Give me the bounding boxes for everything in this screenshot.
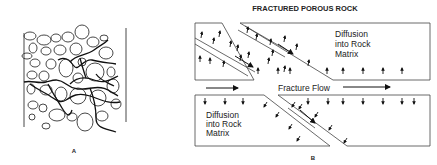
panel-b: FRACTURED POROUS ROCK [175,0,437,165]
panel-a-label: A [72,148,77,154]
fractured-rock-schematic: FRACTURED POROUS ROCK [175,0,437,165]
diagram-title: FRACTURED POROUS ROCK [252,4,358,13]
svg-text:Matrix: Matrix [206,128,230,138]
lower-diffusion-label: Diffusion into Rock Matrix [206,110,242,138]
upper-rock-block [195,23,430,80]
upper-diffusion-label: Diffusion into Rock Matrix [335,29,371,59]
fracture-flow-label: Fracture Flow [278,83,331,93]
porous-rock-illustration: A [0,0,175,165]
svg-text:Diffusion: Diffusion [335,29,368,39]
panel-a: A [0,0,175,165]
panel-b-label: B [311,155,316,161]
svg-text:into Rock: into Rock [335,39,371,49]
svg-text:Matrix: Matrix [335,49,359,59]
